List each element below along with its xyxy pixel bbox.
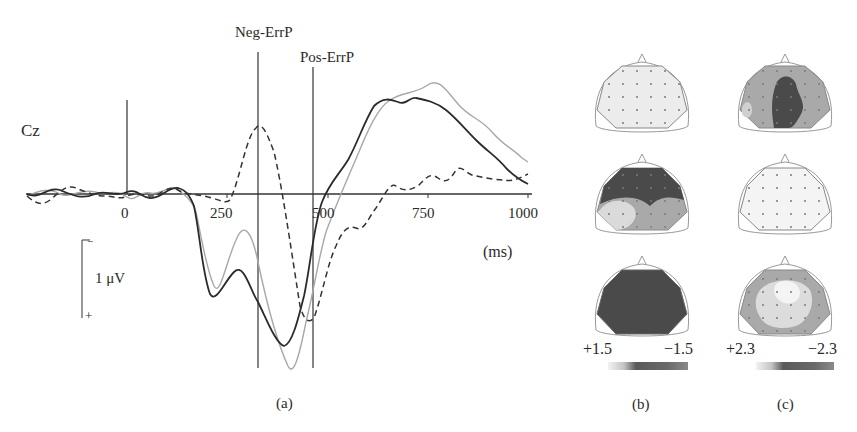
panel-a-axes (26, 52, 532, 368)
topo-map-b-3 (595, 256, 688, 336)
x-tick-750: 750 (412, 206, 435, 221)
channel-label: Cz (21, 122, 40, 139)
scale-bar-bottom-sign: + (85, 309, 92, 322)
pos-errp-label: Pos-ErrP (300, 50, 354, 65)
colorbar-c-min-label: +2.3 (726, 341, 755, 357)
topo-map-c-1 (738, 54, 831, 132)
trace-dashed (27, 126, 528, 321)
x-tick-0: 0 (121, 206, 129, 221)
colorbar-b (608, 362, 688, 370)
scale-bar-top-sign: − (87, 236, 93, 247)
colorbar-b-min-label: +1.5 (583, 341, 612, 357)
colorbar-b-max-label: −1.5 (664, 341, 693, 357)
colorbar-c-max-label: −2.3 (808, 341, 837, 357)
topo-map-b-1 (595, 54, 688, 132)
panel-b-caption: (b) (632, 397, 650, 412)
trace-light-solid (27, 83, 528, 369)
x-tick-250: 250 (210, 206, 233, 221)
erp-traces (27, 83, 528, 369)
scale-bar-label: 1 μV (95, 271, 125, 286)
x-axis-unit: (ms) (483, 244, 512, 260)
topo-map-b-2 (595, 154, 688, 234)
panel-a-caption: (a) (276, 396, 293, 411)
colorbar-c (756, 362, 834, 370)
trace-dark-solid (27, 98, 528, 346)
topo-map-c-3 (738, 256, 831, 336)
x-tick-1000: 1000 (508, 206, 538, 221)
panel-c-caption: (c) (777, 397, 794, 412)
topo-map-c-2 (738, 154, 831, 234)
neg-errp-label: Neg-ErrP (235, 25, 292, 40)
x-tick-500: 500 (312, 206, 335, 221)
voltage-scale-bar (82, 240, 90, 318)
